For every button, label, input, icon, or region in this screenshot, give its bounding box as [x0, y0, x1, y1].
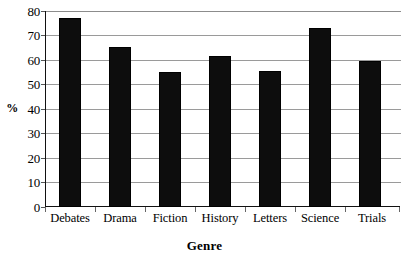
- y-tick-label-20: 20: [18, 152, 40, 165]
- bar-trials: [359, 61, 381, 207]
- bar-letters: [259, 71, 281, 207]
- y-tick-label-50: 50: [18, 78, 40, 91]
- y-tick-label-40: 40: [18, 103, 40, 116]
- bar-debates: [59, 18, 81, 207]
- y-tick-label-60: 60: [18, 54, 40, 67]
- x-tick-label-fiction: Fiction: [145, 211, 195, 226]
- bar-history: [209, 56, 231, 207]
- y-tick-label-80: 80: [18, 5, 40, 18]
- y-tick-label-30: 30: [18, 127, 40, 140]
- x-tick-mark-7: [399, 207, 400, 212]
- bars-layer: [45, 11, 400, 207]
- x-tick-label-debates: Debates: [45, 211, 95, 226]
- x-axis-title: Genre: [0, 238, 409, 254]
- x-tick-label-history: History: [195, 211, 245, 226]
- x-tick-label-letters: Letters: [245, 211, 295, 226]
- y-tick-label-10: 10: [18, 176, 40, 189]
- bar-drama: [109, 47, 131, 208]
- y-axis-title: %: [2, 101, 18, 115]
- x-tick-label-science: Science: [295, 211, 345, 226]
- x-tick-label-trials: Trials: [345, 211, 399, 226]
- bar-science: [309, 28, 331, 207]
- y-tick-label-70: 70: [18, 29, 40, 42]
- x-tick-label-drama: Drama: [95, 211, 145, 226]
- bar-chart: % 80 70 60 50 40 30 20 10 0: [0, 0, 409, 263]
- y-tick-label-0: 0: [18, 201, 40, 214]
- bar-fiction: [159, 72, 181, 207]
